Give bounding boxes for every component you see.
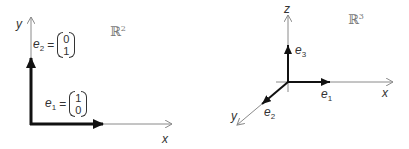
y-axis-label-3d: y bbox=[231, 110, 237, 122]
x-axis-label-3d: x bbox=[382, 87, 388, 99]
z-axis-label: z bbox=[284, 3, 290, 15]
e2-label-3d: e2 bbox=[264, 106, 275, 121]
r3-space-label: ℝ3 bbox=[348, 13, 364, 26]
e1-definition: e1 = 1 0 bbox=[45, 91, 87, 117]
e1-label-3d: e1 bbox=[321, 88, 332, 103]
r3-diagram: z x y ℝ3 e3 e1 e2 bbox=[200, 0, 409, 149]
e1-column-vector: 1 0 bbox=[69, 91, 87, 117]
r2-diagram: y x ℝ2 e2 = 0 1 e1 = 1 0 bbox=[0, 0, 200, 149]
e2-column-vector: 0 1 bbox=[57, 32, 75, 58]
e3-label: e3 bbox=[295, 44, 306, 59]
e2-vector-3d bbox=[262, 82, 288, 104]
e2-definition: e2 = 0 1 bbox=[33, 32, 75, 58]
r2-space-label: ℝ2 bbox=[110, 25, 126, 38]
r2-axes-graphic bbox=[0, 0, 200, 149]
x-axis-label: x bbox=[162, 133, 168, 145]
r3-axes-graphic bbox=[200, 0, 409, 149]
e2-symbol: e2 bbox=[33, 37, 44, 53]
e1-symbol: e1 bbox=[45, 96, 56, 112]
y-axis-label: y bbox=[16, 18, 22, 30]
